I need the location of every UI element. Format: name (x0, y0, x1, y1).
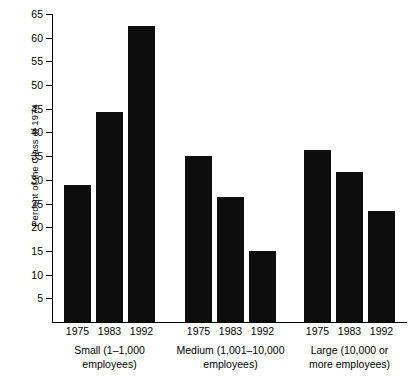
y-tick-mark (46, 227, 52, 228)
bar (128, 26, 155, 322)
y-tick-label: 20 (31, 221, 43, 233)
y-tick-label: 5 (37, 292, 43, 304)
bar (217, 197, 244, 322)
x-year-label: 1975 (66, 325, 89, 337)
x-axis-line (52, 322, 407, 323)
y-tick-mark (46, 109, 52, 110)
x-group-label: Large (10,000 ormore employees) (309, 343, 390, 371)
x-group-label-line: more employees) (309, 357, 390, 371)
y-axis-line (52, 14, 53, 322)
plot-area: 5101520253035404550556065 (52, 14, 407, 322)
y-tick-mark (46, 298, 52, 299)
x-group-label: Small (1–1,000employees) (74, 343, 145, 371)
y-tick-mark (46, 85, 52, 86)
bar (304, 150, 331, 322)
y-tick-label: 40 (31, 126, 43, 138)
x-year-label: 1983 (98, 325, 121, 337)
x-year-label: 1992 (130, 325, 153, 337)
y-tick-mark (46, 14, 52, 15)
x-group-label-line: Medium (1,001–10,000 (177, 343, 285, 357)
y-tick-mark (46, 156, 52, 157)
bar (336, 172, 363, 322)
y-tick-mark (46, 132, 52, 133)
x-year-label: 1983 (219, 325, 242, 337)
y-tick-mark (46, 204, 52, 205)
x-group-label: Medium (1,001–10,000employees) (177, 343, 285, 371)
y-tick-label: 15 (31, 245, 43, 257)
x-year-label: 1992 (251, 325, 274, 337)
bar-chart-figure: Percent of the Class of 1974 51015202530… (0, 0, 413, 377)
bar (185, 156, 212, 322)
x-year-label: 1992 (370, 325, 393, 337)
x-year-label: 1983 (338, 325, 361, 337)
y-tick-mark (46, 251, 52, 252)
y-tick-label: 65 (31, 8, 43, 20)
y-tick-label: 60 (31, 32, 43, 44)
y-tick-mark (46, 275, 52, 276)
bar (249, 251, 276, 322)
y-tick-label: 45 (31, 103, 43, 115)
y-tick-mark (46, 61, 52, 62)
x-group-label-line: Large (10,000 or (309, 343, 390, 357)
bar (96, 112, 123, 322)
y-tick-label: 10 (31, 269, 43, 281)
x-year-label: 1975 (306, 325, 329, 337)
x-group-label-line: employees) (177, 357, 285, 371)
y-tick-mark (46, 38, 52, 39)
x-axis-labels: 197519831992197519831992197519831992 Sma… (52, 325, 407, 377)
y-tick-mark (46, 180, 52, 181)
y-tick-label: 50 (31, 79, 43, 91)
x-year-label: 1975 (187, 325, 210, 337)
y-tick-label: 55 (31, 55, 43, 67)
x-group-label-line: Small (1–1,000 (74, 343, 145, 357)
bar (64, 185, 91, 322)
bar (368, 211, 395, 322)
y-tick-label: 35 (31, 150, 43, 162)
y-tick-label: 25 (31, 198, 43, 210)
y-tick-label: 30 (31, 174, 43, 186)
x-group-label-line: employees) (74, 357, 145, 371)
